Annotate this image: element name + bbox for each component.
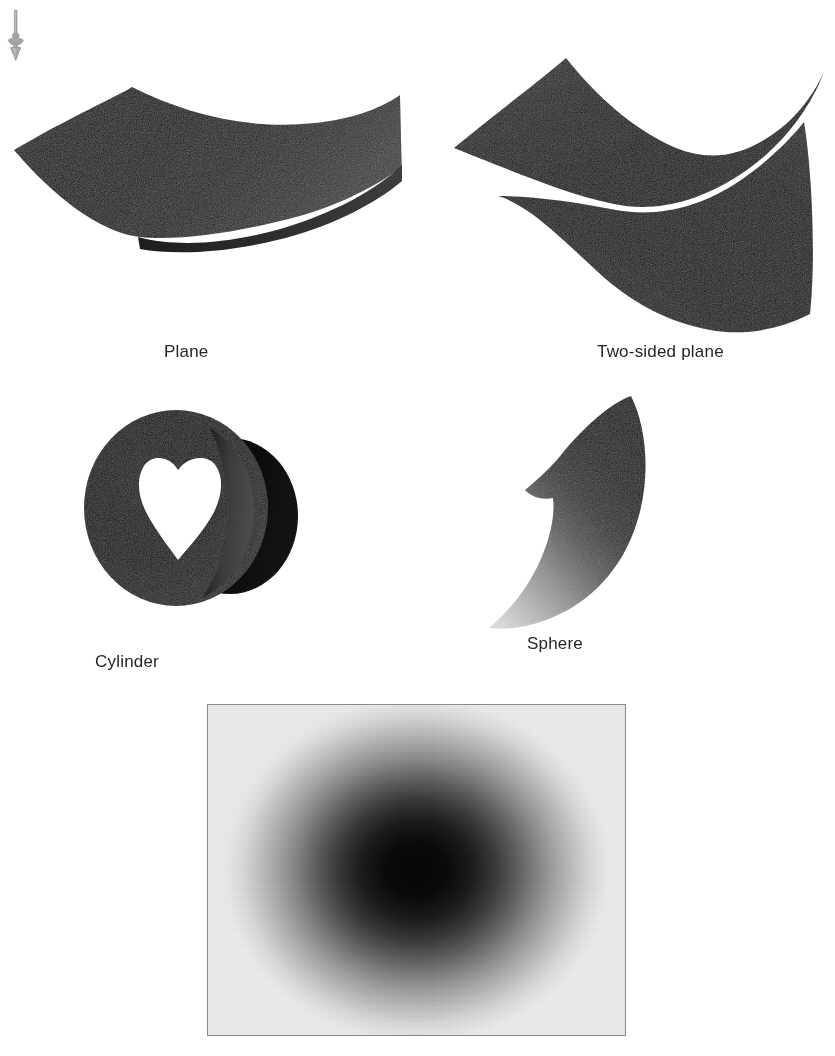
figure-label-two-sided-plane: Two-sided plane [597, 342, 724, 362]
figure-label-cylinder: Cylinder [95, 652, 159, 672]
figure-plane [0, 55, 420, 320]
sphere-surface [489, 396, 646, 629]
figure-label-sphere: Sphere [527, 634, 583, 654]
density-plot-grain-overlay [208, 705, 625, 1035]
figure-label-plane: Plane [164, 342, 208, 362]
figure-page: Plane Two-sided plane Cylinder Sphere [0, 0, 835, 1056]
figure-cylinder [78, 388, 348, 638]
figure-two-sided-plane [438, 18, 818, 338]
figure-sphere [455, 388, 695, 638]
density-plot [207, 704, 626, 1036]
down-arrow-pin-icon [4, 8, 30, 62]
